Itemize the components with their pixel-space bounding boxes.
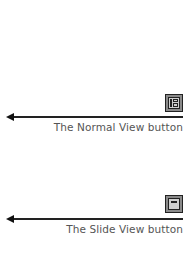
pointer-arrow-line [12,218,183,220]
normal-view-button[interactable] [165,94,183,112]
arrow-left-icon [6,113,14,121]
slide-view-icon [168,198,180,210]
arrow-left-icon [6,215,14,223]
normal-view-label: The Normal View button [54,121,183,133]
normal-view-icon [168,97,180,109]
pointer-arrow-line [12,116,183,118]
slide-view-label: The Slide View button [66,223,183,235]
slide-view-button[interactable] [165,195,183,213]
